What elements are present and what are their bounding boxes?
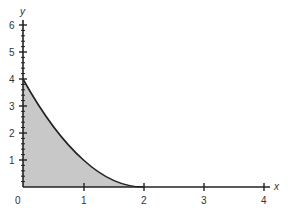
y-tick-label-3: 3 xyxy=(9,101,15,112)
x-tick-label-1: 1 xyxy=(81,195,87,206)
y-tick-label-2: 2 xyxy=(9,128,15,139)
y-axis-label: y xyxy=(19,6,26,17)
x-axis-label: x xyxy=(273,181,280,192)
y-tick-label-5: 5 xyxy=(9,47,15,58)
y-tick-label-6: 6 xyxy=(9,20,15,31)
y-tick-label-1: 1 xyxy=(9,155,15,166)
x-tick-label-3: 3 xyxy=(201,195,207,206)
y-tick-label-4: 4 xyxy=(9,74,15,85)
chart: 0 1 2 3 4 1 2 3 4 5 6 x y xyxy=(0,0,291,208)
x-tick-label-4: 4 xyxy=(261,195,267,206)
shaded-area xyxy=(23,79,144,187)
x-tick-label-0: 0 xyxy=(15,195,21,206)
x-tick-label-2: 2 xyxy=(141,195,147,206)
